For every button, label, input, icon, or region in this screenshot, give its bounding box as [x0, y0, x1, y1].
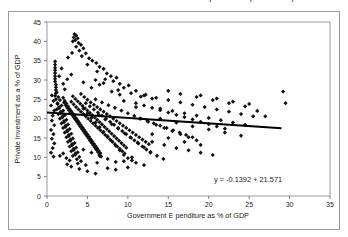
data-point [239, 112, 243, 116]
data-point [100, 100, 104, 104]
y-tick-label: 45 [33, 19, 41, 26]
data-point [161, 157, 165, 161]
data-point [110, 90, 114, 94]
data-point [158, 124, 162, 128]
data-point [114, 119, 118, 123]
data-point [66, 55, 70, 59]
data-point [53, 79, 57, 83]
x-tick-label: 35 [326, 201, 334, 208]
data-point [215, 96, 219, 100]
data-point [186, 148, 190, 152]
data-point [58, 154, 62, 158]
data-point [227, 101, 231, 105]
data-point [251, 114, 255, 118]
data-point [79, 92, 83, 96]
y-tick-label: 40 [33, 38, 41, 45]
data-point [134, 105, 138, 109]
data-point [142, 163, 146, 167]
data-point [87, 56, 91, 60]
data-point [116, 127, 120, 131]
data-point [102, 81, 106, 85]
data-point [199, 143, 203, 147]
y-axis-ticks: 051015202530354045 [33, 19, 47, 200]
data-point [124, 126, 128, 130]
y-tick-label: 15 [33, 135, 41, 142]
data-point [69, 72, 73, 76]
x-tick-label: 20 [205, 201, 213, 208]
data-point [94, 61, 98, 65]
data-point [50, 119, 54, 123]
data-point [190, 124, 194, 128]
data-point [95, 69, 99, 73]
x-tick-label: 10 [124, 201, 132, 208]
data-point [81, 80, 85, 84]
data-point [106, 166, 110, 170]
data-point [111, 79, 115, 83]
data-point [65, 162, 69, 166]
data-point [127, 83, 131, 87]
data-point [116, 88, 120, 92]
data-point [132, 138, 136, 142]
data-point [84, 51, 88, 55]
data-point [51, 132, 55, 136]
data-point [144, 140, 148, 144]
regression-equation-label: y = -0.1392 + 21.571 [214, 175, 282, 184]
data-point [147, 142, 151, 146]
y-tick-label: 0 [37, 193, 41, 200]
data-point [118, 93, 122, 97]
data-point [194, 113, 198, 117]
data-point [174, 113, 178, 117]
data-point [215, 107, 219, 111]
data-point [61, 82, 65, 86]
data-point [109, 74, 113, 78]
data-point [243, 104, 247, 108]
data-point [69, 100, 73, 104]
data-point [255, 109, 259, 113]
data-point [64, 156, 68, 160]
y-tick-label: 20 [33, 115, 41, 122]
data-point [130, 155, 134, 159]
data-point [106, 103, 110, 107]
data-point [95, 161, 99, 165]
data-point [199, 93, 203, 97]
data-point [69, 165, 73, 169]
data-point [283, 101, 287, 105]
data-point [134, 101, 138, 105]
data-points [49, 32, 288, 176]
data-point [97, 83, 101, 87]
data-point [85, 98, 89, 102]
data-point [199, 151, 203, 155]
data-point [105, 71, 109, 75]
data-point [263, 114, 267, 118]
data-point [98, 107, 102, 111]
data-point [190, 117, 194, 121]
data-point [103, 77, 107, 81]
data-point [140, 137, 144, 141]
data-point [52, 141, 56, 145]
data-point [51, 146, 55, 150]
data-point [150, 140, 154, 144]
data-point [150, 96, 154, 100]
data-point [239, 134, 243, 138]
data-point [84, 163, 88, 167]
data-point [81, 148, 85, 152]
data-point [126, 165, 130, 169]
data-point [95, 105, 99, 109]
data-point [76, 161, 80, 165]
y-axis-title: Private Investment as a % of GDP [13, 54, 22, 163]
data-point [154, 96, 158, 100]
data-point [126, 111, 130, 115]
data-point [134, 133, 138, 137]
data-point [142, 103, 146, 107]
data-point [148, 150, 152, 154]
data-point [155, 154, 159, 158]
data-point [182, 140, 186, 144]
data-point [82, 95, 86, 99]
data-point [51, 113, 55, 117]
plot-frame [47, 22, 330, 196]
data-point [92, 103, 96, 107]
data-point [207, 116, 211, 120]
x-tick-label: 15 [164, 201, 172, 208]
data-point [127, 128, 131, 132]
y-tick-label: 5 [37, 173, 41, 180]
